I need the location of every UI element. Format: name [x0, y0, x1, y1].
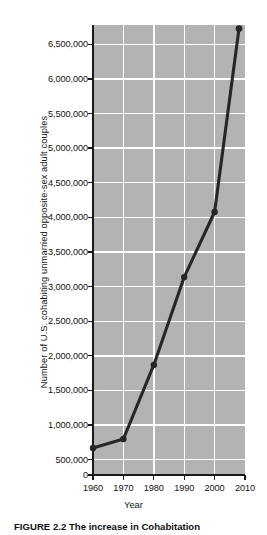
x-tick-label: 2010: [235, 483, 255, 493]
figure-caption-number: FIGURE 2.2: [14, 521, 66, 532]
figure-caption: FIGURE 2.2 The increase in Cohabitation: [14, 521, 259, 533]
figure-caption-text: The increase in Cohabitation: [69, 521, 200, 532]
x-tick-label: 1980: [144, 483, 164, 493]
x-tick-label: 1990: [174, 483, 194, 493]
x-tick-label: 2000: [205, 483, 225, 493]
x-tick-label: 1970: [113, 483, 133, 493]
x-axis-title: Year: [0, 500, 267, 510]
figure-line-chart: Number of U.S. cohabiting unmarried oppo…: [0, 0, 267, 535]
x-tick-label: 1960: [83, 483, 103, 493]
x-axis-tick-labels: 1960 1970 1980 1990 2000 2010: [0, 0, 267, 535]
